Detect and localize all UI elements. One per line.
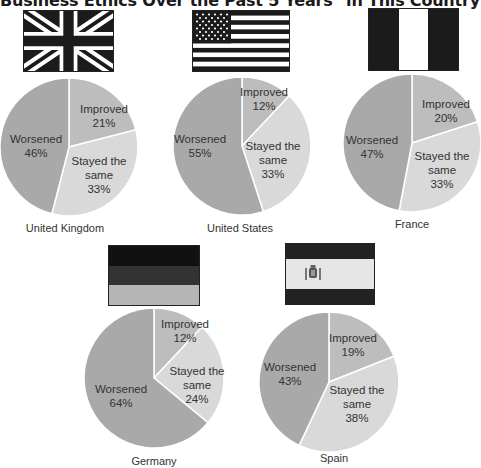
germany-worsened-label: Worsened 64% — [95, 382, 147, 410]
uk-worsened-label: Worsened 46% — [10, 132, 62, 160]
uk-improved-label: Improved 21% — [80, 102, 128, 130]
us-same-label: Stayed the same 33% — [246, 139, 301, 181]
germany-improved-label: Improved 12% — [161, 317, 209, 345]
us-worsened-label: Worsened 55% — [174, 132, 226, 160]
spain-same-label: Stayed the same 38% — [330, 383, 385, 425]
us-flag-icon — [192, 10, 290, 72]
france-same-label: Stayed the same 33% — [415, 149, 470, 191]
germany-country-label: Germany — [131, 455, 176, 467]
france-worsened-label: Worsened 47% — [346, 133, 398, 161]
spain-flag-icon — [285, 243, 375, 305]
us-country-label: United States — [207, 222, 273, 234]
germany-flag-icon — [108, 245, 200, 306]
spain-country-label: Spain — [320, 452, 348, 464]
spain-improved-label: Improved 19% — [329, 331, 377, 359]
us-improved-label: Improved 12% — [240, 85, 288, 113]
uk-country-label: United Kingdom — [26, 222, 104, 234]
uk-flag-icon — [23, 10, 114, 72]
france-improved-label: Improved 20% — [422, 97, 470, 125]
germany-same-label: Stayed the same 24% — [170, 364, 225, 406]
france-country-label: France — [395, 218, 429, 230]
spain-worsened-label: Worsened 43% — [264, 360, 316, 388]
uk-same-label: Stayed the same 33% — [72, 154, 127, 196]
france-flag-icon — [368, 8, 459, 71]
